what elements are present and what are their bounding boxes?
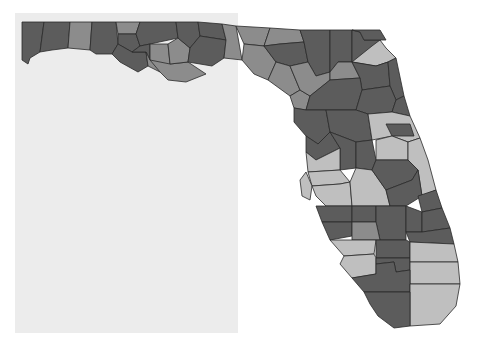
county-walton [90, 22, 118, 54]
county-putnam [356, 86, 396, 114]
county-manatee [316, 206, 352, 222]
county-lee [340, 254, 376, 278]
county-lake [356, 140, 376, 170]
county-desoto [352, 222, 380, 240]
county-sarasota [322, 222, 352, 240]
county-charlotte [330, 240, 376, 256]
florida-map [0, 0, 493, 348]
county-highlands [376, 206, 406, 240]
county-glades [376, 240, 410, 258]
county-hardee [352, 206, 376, 222]
county-layer [22, 22, 460, 328]
county-monroe [364, 292, 410, 328]
county-miami-dade [410, 284, 460, 326]
county-escambia [22, 22, 44, 64]
county-broward [410, 262, 460, 284]
county-palm-beach [410, 242, 458, 262]
map-svg [0, 0, 493, 348]
county-hillsborough [312, 182, 352, 206]
county-santa-rosa [40, 22, 70, 52]
county-okeechobee [406, 206, 422, 232]
county-okaloosa [68, 22, 92, 50]
